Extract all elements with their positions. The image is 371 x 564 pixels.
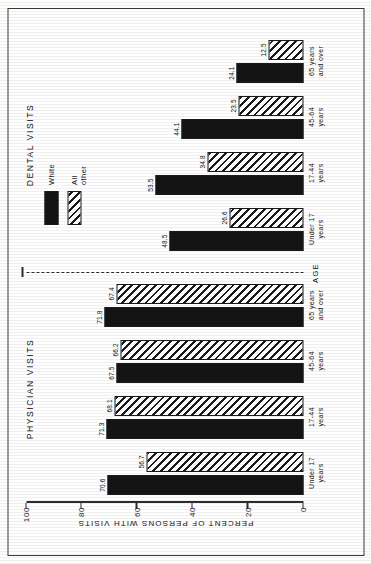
group-label-line1: Under 17 [307, 213, 316, 245]
bar-other [146, 452, 303, 473]
bar-white [155, 175, 303, 196]
bar-value-label: 56.7 [137, 455, 144, 468]
y-tick-label: 100 [22, 507, 31, 533]
group-label-line2: years [316, 213, 325, 245]
group-label: 45-64years [307, 351, 325, 371]
bar-group: 53.534.817-44years [26, 151, 303, 196]
bar-value-label: 23.5 [229, 99, 236, 112]
bar-group: 71.867.465 yearsand over [26, 283, 303, 328]
bar-value-label: 24.1 [227, 66, 234, 79]
group-label: Under 17years [307, 213, 325, 245]
bar-other [114, 396, 303, 417]
bar-value-label: 67.5 [107, 366, 114, 379]
legend-label-all-other: All other [69, 166, 87, 185]
group-label-line2: years [316, 351, 325, 371]
bar-value-label: 26.6 [220, 211, 227, 224]
panel-physician-visits: PHYSICIAN VISITS 70.656.7Under 17years71… [26, 277, 303, 501]
group-label-line2: years [316, 163, 325, 183]
bar-value-label: 71.3 [97, 422, 104, 435]
y-axis-title: PERCENT OF PERSONS WITH VISITS [77, 519, 253, 528]
legend-swatch-hatch-icon [67, 191, 81, 225]
bar-white [104, 307, 303, 328]
legend-swatch-white-icon [44, 191, 58, 225]
bar-value-label: 68.1 [105, 399, 112, 412]
group-label-line1: 17-44 [307, 163, 316, 183]
group-label-line1: 65 years [307, 290, 316, 320]
bar-other [207, 152, 303, 173]
bar-value-label: 67.4 [107, 287, 114, 300]
bar-value-label: 66.2 [111, 343, 118, 356]
x-axis-title: AGE [310, 263, 319, 283]
bar-white [116, 363, 303, 384]
separator-cap-tick [21, 267, 23, 277]
bar-group: 67.566.245-64years [26, 339, 303, 384]
group-label: 45-64years [307, 107, 325, 127]
figure-border: PERCENT OF PERSONS WITH VISITS 020406080… [7, 8, 364, 556]
bar-group: 44.123.545-64years [26, 95, 303, 140]
scanned-chart-page: PERCENT OF PERSONS WITH VISITS 020406080… [0, 0, 371, 564]
panel-separator [26, 271, 303, 273]
y-axis-line: 020406080100 [26, 501, 303, 503]
bar-group: 70.656.7Under 17years [26, 451, 303, 496]
bar-other [116, 284, 303, 305]
bar-value-label: 44.1 [172, 122, 179, 135]
group-label-line2: and over [316, 46, 325, 76]
group-label-line2: years [316, 457, 325, 489]
y-tick-label: 60 [132, 507, 141, 533]
bar-value-label: 53.5 [146, 178, 153, 191]
bar-white [107, 475, 303, 496]
group-label-line1: 17-44 [307, 407, 316, 427]
group-label: 17-44years [307, 407, 325, 427]
bar-other [120, 340, 303, 361]
bar-value-label: 70.6 [98, 478, 105, 491]
y-tick-label: 80 [77, 507, 86, 533]
bar-white [169, 231, 303, 252]
group-label-line1: Under 17 [307, 457, 316, 489]
y-tick-label: 0 [299, 507, 308, 533]
group-label-line2: years [316, 107, 325, 127]
bar-value-label: 34.8 [198, 155, 205, 168]
group-label-line1: 65 years [307, 46, 316, 76]
rotated-figure: PERCENT OF PERSONS WITH VISITS 020406080… [0, 0, 371, 564]
bar-value-label: 71.8 [95, 310, 102, 323]
bar-other [229, 208, 303, 229]
bar-white [236, 63, 303, 84]
group-label-line1: 45-64 [307, 351, 316, 371]
y-axis-title-wrap: PERCENT OF PERSONS WITH VISITS [26, 519, 303, 533]
legend-label-white: White [46, 164, 55, 185]
bar-group: 71.368.117-44years [26, 395, 303, 440]
bar-other [238, 96, 303, 117]
group-label: 17-44years [307, 163, 325, 183]
group-label: Under 17years [307, 457, 325, 489]
y-tick-label: 40 [188, 507, 197, 533]
bar-white [106, 419, 304, 440]
group-label-line2: years [316, 407, 325, 427]
bar-white [181, 119, 303, 140]
bar-value-label: 48.5 [160, 234, 167, 247]
y-tick-label: 20 [243, 507, 252, 533]
bar-other [268, 40, 303, 61]
group-label: 65 yearsand over [307, 290, 325, 320]
separator-dashed-line [26, 272, 303, 273]
group-label-line1: 45-64 [307, 107, 316, 127]
bar-group: 24.112.565 yearsand over [26, 39, 303, 84]
group-label-line2: and over [316, 290, 325, 320]
bar-value-label: 12.5 [259, 43, 266, 56]
group-label: 65 yearsand over [307, 46, 325, 76]
